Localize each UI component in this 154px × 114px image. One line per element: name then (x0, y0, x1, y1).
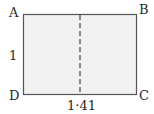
side-length-left-label: 1 (9, 48, 17, 63)
paper-rectangle-diagram: A B C D 1 1·41 (0, 0, 154, 114)
vertex-b-label: B (139, 2, 149, 17)
vertex-a-label: A (8, 5, 19, 20)
vertex-c-label: C (139, 88, 149, 103)
vertex-d-label: D (9, 88, 19, 103)
side-length-bottom-label: 1·41 (67, 98, 96, 113)
